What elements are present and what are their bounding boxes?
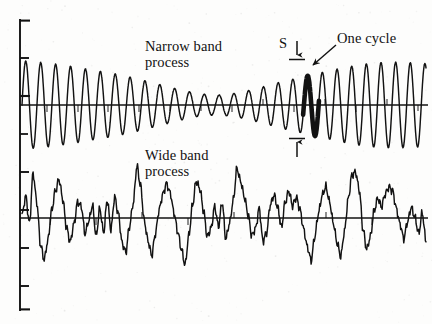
- one-cycle-leader-arrow: [313, 45, 336, 65]
- wide-band-label: Wide band process: [145, 147, 209, 179]
- narrow-band-label-line2: process: [145, 54, 222, 70]
- amplitude-s-label: S: [279, 35, 287, 51]
- narrow-band-trace-group: [20, 61, 428, 148]
- wide-band-label-line2: process: [145, 163, 209, 179]
- narrow-band-label-line1: Narrow band: [145, 38, 222, 54]
- wide-band-label-line1: Wide band: [145, 147, 209, 163]
- narrow-band-label: Narrow band process: [145, 38, 222, 70]
- one-cycle-highlight: [303, 76, 319, 136]
- one-cycle-label: One cycle: [337, 30, 396, 46]
- figure-container: Narrow band process Wide band process S …: [0, 0, 432, 324]
- wide-band-trace-group: [20, 164, 428, 266]
- wide-band-waveform: [22, 164, 426, 266]
